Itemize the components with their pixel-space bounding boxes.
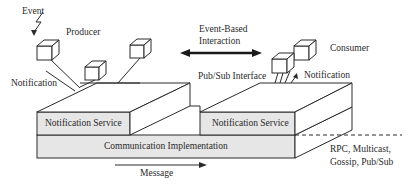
notification-right-label: Notification: [304, 70, 350, 81]
notification-service-left-label: Notification Service: [45, 118, 122, 129]
client-cube-icon: [130, 39, 151, 58]
consumer-label: Consumer: [330, 43, 369, 54]
producer-cube-icon: [37, 40, 59, 60]
protocols-label-line2: Gossip, Pub/Sub: [330, 157, 393, 168]
event-label: Event: [22, 6, 44, 17]
protocols-label-line1: RPC, Multicast,: [330, 144, 391, 155]
double-arrow-icon: [180, 49, 262, 57]
notification-arrow-icon: [293, 73, 298, 79]
consumer-cube-icon: [294, 40, 316, 60]
event-based-label-line1: Event-Based: [199, 24, 248, 35]
producer-label: Producer: [66, 27, 100, 38]
communication-implementation-label: Communication Implementation: [104, 141, 228, 152]
consumer-cube-icon: [272, 53, 294, 73]
client-cube-icon: [85, 61, 106, 80]
pubsub-interface-label: Pub/Sub Interface: [198, 71, 266, 82]
event-based-label-line2: Interaction: [199, 36, 240, 47]
message-label: Message: [140, 168, 173, 179]
notification-left-label: Notification: [11, 78, 57, 89]
notification-service-right-label: Notification Service: [212, 118, 289, 129]
